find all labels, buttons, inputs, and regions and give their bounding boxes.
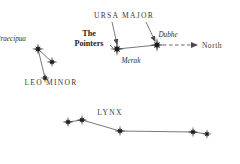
label-the-pointers: The Pointers xyxy=(74,29,103,48)
annotation-pointer-line xyxy=(110,45,113,48)
star-marker xyxy=(114,125,125,136)
label-ursa-major: URSA MAJOR xyxy=(94,12,154,20)
star-marker xyxy=(202,129,212,139)
leader-lines xyxy=(112,22,155,44)
star-marker xyxy=(62,116,73,127)
label-praecipua: Praecipua xyxy=(0,36,26,44)
constellation-line xyxy=(38,49,45,78)
star-marker xyxy=(76,114,87,125)
constellation-line xyxy=(82,120,120,131)
label-the-pointers-line1: The xyxy=(82,29,96,38)
leader-line xyxy=(146,22,155,41)
constellation-line xyxy=(120,131,193,132)
label-lynx: LYNX xyxy=(97,109,122,117)
star-marker xyxy=(110,42,124,56)
constellation-line xyxy=(117,45,157,49)
label-leo-minor: LEO MINOR xyxy=(24,79,77,87)
star-markers xyxy=(32,38,212,139)
label-north: North xyxy=(202,42,222,50)
leader-line xyxy=(112,22,117,44)
star-chart-figure: URSA MAJOR The Pointers Dubhe Merak Nort… xyxy=(0,0,240,164)
star-marker xyxy=(150,38,164,52)
label-the-pointers-line2: Pointers xyxy=(74,39,103,48)
star-marker xyxy=(187,126,198,137)
label-merak: Merak xyxy=(122,58,141,66)
label-dubhe: Dubhe xyxy=(158,32,177,40)
